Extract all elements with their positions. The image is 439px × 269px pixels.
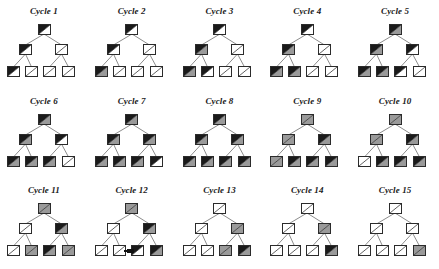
node-leaf-3 (43, 156, 56, 167)
node-leaf-1 (183, 156, 196, 167)
node-root (38, 114, 51, 125)
node-root (125, 203, 138, 214)
node-leaf-3 (394, 66, 407, 77)
node-leaf-2 (376, 245, 389, 256)
node-leaf-2 (25, 66, 38, 77)
node-root (213, 203, 226, 214)
tree-diagram (176, 0, 264, 90)
tree-diagram (176, 90, 264, 180)
node-internal-left (107, 223, 120, 234)
node-leaf-1 (95, 245, 108, 256)
node-leaf-1 (358, 245, 371, 256)
tree-diagram (263, 179, 351, 269)
node-root (125, 114, 138, 125)
node-leaf-1 (183, 245, 196, 256)
pointer-marker-icon (127, 249, 134, 253)
node-internal-right (406, 134, 419, 145)
node-leaf-4 (413, 66, 426, 77)
node-root (38, 203, 51, 214)
node-leaf-2 (288, 245, 301, 256)
node-internal-right (318, 44, 331, 55)
tree-diagram (88, 90, 176, 180)
node-leaf-4 (150, 66, 163, 77)
node-leaf-4 (62, 66, 75, 77)
cycle-cell: Cycle 8 (176, 90, 264, 180)
node-leaf-3 (219, 156, 232, 167)
cycle-cell: Cycle 1 (0, 0, 88, 90)
node-leaf-4 (238, 245, 251, 256)
node-internal-right (318, 223, 331, 234)
cycle-cell: Cycle 10 (351, 90, 439, 180)
node-leaf-3 (306, 245, 319, 256)
node-leaf-2 (201, 156, 214, 167)
node-leaf-4 (325, 66, 338, 77)
tree-diagram (88, 0, 176, 90)
node-internal-right (143, 223, 156, 234)
node-leaf-2 (113, 66, 126, 77)
node-leaf-1 (7, 245, 20, 256)
node-leaf-4 (238, 156, 251, 167)
node-internal-left (370, 44, 383, 55)
node-internal-right (406, 44, 419, 55)
tree-diagram (0, 179, 88, 269)
cycle-cell: Cycle 15 (351, 179, 439, 269)
node-root (389, 203, 402, 214)
cycle-cell: Cycle 11 (0, 179, 88, 269)
node-root (301, 114, 314, 125)
node-internal-right (231, 223, 244, 234)
node-leaf-4 (325, 156, 338, 167)
node-leaf-3 (219, 66, 232, 77)
tree-diagram (351, 0, 439, 90)
node-root (301, 24, 314, 35)
tree-diagram (0, 90, 88, 180)
tree-diagram (176, 179, 264, 269)
cycle-cell: Cycle 3 (176, 0, 264, 90)
node-root (213, 114, 226, 125)
node-internal-left (195, 44, 208, 55)
node-leaf-4 (413, 156, 426, 167)
cycle-cell: Cycle 2 (88, 0, 176, 90)
node-internal-left (282, 44, 295, 55)
tree-diagram (263, 90, 351, 180)
node-internal-left (282, 223, 295, 234)
cycle-cell: Cycle 6 (0, 90, 88, 180)
node-internal-right (143, 44, 156, 55)
node-leaf-4 (150, 156, 163, 167)
node-leaf-2 (201, 245, 214, 256)
node-internal-left (19, 223, 32, 234)
node-internal-right (55, 134, 68, 145)
node-internal-left (107, 134, 120, 145)
node-internal-left (19, 44, 32, 55)
node-leaf-4 (62, 245, 75, 256)
node-internal-right (318, 134, 331, 145)
cycle-cell: Cycle 4 (263, 0, 351, 90)
node-leaf-4 (238, 66, 251, 77)
node-internal-left (195, 223, 208, 234)
node-leaf-3 (394, 245, 407, 256)
tree-diagram (0, 0, 88, 90)
node-root (125, 24, 138, 35)
node-internal-left (195, 134, 208, 145)
node-internal-left (282, 134, 295, 145)
node-leaf-4 (413, 245, 426, 256)
node-leaf-3 (131, 156, 144, 167)
node-root (38, 24, 51, 35)
node-leaf-3 (219, 245, 232, 256)
node-internal-left (370, 134, 383, 145)
node-leaf-2 (201, 66, 214, 77)
node-leaf-1 (95, 66, 108, 77)
node-leaf-2 (376, 66, 389, 77)
node-leaf-4 (150, 245, 163, 256)
node-leaf-1 (270, 156, 283, 167)
cycle-cell: Cycle 7 (88, 90, 176, 180)
cycle-cell: Cycle 5 (351, 0, 439, 90)
node-leaf-2 (25, 156, 38, 167)
node-leaf-3 (306, 66, 319, 77)
node-internal-left (107, 44, 120, 55)
node-internal-right (231, 134, 244, 145)
node-leaf-3 (306, 156, 319, 167)
node-leaf-4 (325, 245, 338, 256)
cycle-grid: Cycle 1Cycle 2Cycle 3Cycle 4Cycle 5Cycle… (0, 0, 439, 269)
node-internal-right (55, 44, 68, 55)
node-leaf-3 (43, 245, 56, 256)
